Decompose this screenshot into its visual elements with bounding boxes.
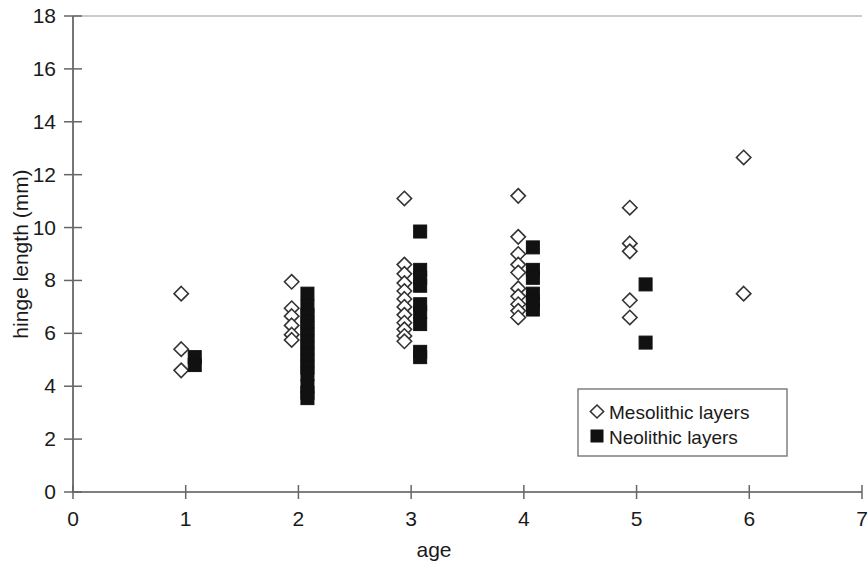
data-point-mesolithic [623,293,637,307]
x-tick-label: 7 [856,507,868,530]
series-mesolithic-layers [174,150,751,377]
data-point-mesolithic [397,191,411,205]
x-axis-tick-labels: 01234567 [67,507,868,530]
data-point-neolithic [639,336,652,349]
x-tick-label: 2 [293,507,305,530]
series-neolithic-layers [188,225,652,405]
y-tick-label: 14 [33,110,57,133]
data-point-mesolithic [736,150,750,164]
x-axis-title: age [416,538,451,561]
legend-entry-neolithic: Neolithic layers [591,427,738,448]
y-tick-label: 2 [44,427,56,450]
data-point-mesolithic [174,363,188,377]
x-tick-label: 1 [180,507,192,530]
x-tick-label: 4 [518,507,530,530]
x-tick-label: 5 [631,507,643,530]
data-point-mesolithic [174,342,188,356]
data-point-neolithic [414,279,427,292]
legend-label-neolithic: Neolithic layers [609,427,738,448]
x-tick-label: 0 [67,507,79,530]
data-point-neolithic [414,306,427,319]
y-tick-label: 0 [44,480,56,503]
y-tick-label: 16 [33,57,56,80]
data-point-neolithic [414,318,427,331]
y-tick-label: 4 [44,374,56,397]
data-point-mesolithic [511,189,525,203]
data-point-mesolithic [511,230,525,244]
scatter-chart: 024681012141618 01234567 age hinge lengt… [0,0,868,567]
data-point-mesolithic [623,310,637,324]
x-tick-label: 3 [405,507,417,530]
y-tick-label: 18 [33,4,56,27]
data-point-mesolithic [736,286,750,300]
data-point-neolithic [526,303,539,316]
data-point-neolithic [414,351,427,364]
data-point-neolithic [639,278,652,291]
data-point-neolithic [526,271,539,284]
filled-square-icon [591,430,603,442]
legend-entry-mesolithic: Mesolithic layers [590,402,749,423]
data-point-neolithic [414,225,427,238]
data-point-mesolithic [174,286,188,300]
legend-label-mesolithic: Mesolithic layers [609,402,749,423]
y-tick-label: 8 [44,268,56,291]
data-point-mesolithic [284,275,298,289]
data-point-neolithic [301,368,314,381]
data-point-neolithic [301,392,314,405]
x-tick-label: 6 [743,507,755,530]
y-tick-label: 10 [33,216,56,239]
y-axis-tick-labels: 024681012141618 [33,4,57,503]
y-axis-title: hinge length (mm) [9,169,32,338]
y-tick-label: 6 [44,321,56,344]
plot-surface: 024681012141618 01234567 age hinge lengt… [0,0,868,567]
data-point-neolithic [526,241,539,254]
y-tick-label: 12 [33,163,56,186]
data-point-neolithic [301,287,314,300]
chart-legend: Mesolithic layers Neolithic layers [578,389,787,456]
data-point-mesolithic [623,201,637,215]
data-point-neolithic [188,359,201,372]
